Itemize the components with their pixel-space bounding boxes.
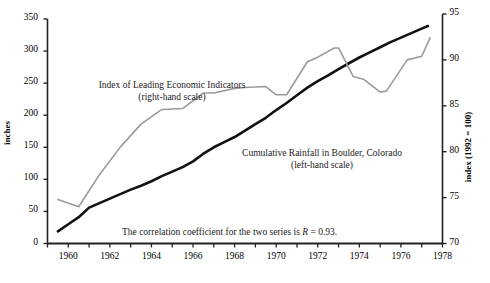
left-tick-label-50: 50 xyxy=(4,204,38,214)
x-tick-label-1968: 1968 xyxy=(213,251,257,261)
series-label-index-line1: Index of Leading Economic Indicators xyxy=(72,79,272,91)
right-tick-label-95: 95 xyxy=(450,7,480,17)
series-line-rainfall xyxy=(58,26,428,231)
series-label-rainfall-line1: Cumulative Rainfall in Boulder, Colorado xyxy=(226,147,418,159)
left-tick-label-0: 0 xyxy=(4,237,38,247)
axis-lines xyxy=(48,14,443,244)
series-line-index xyxy=(58,38,430,207)
left-tick-label-100: 100 xyxy=(4,172,38,182)
x-tick-label-1962: 1962 xyxy=(88,251,132,261)
x-tick-label-1976: 1976 xyxy=(379,251,423,261)
chart-plot-area xyxy=(0,0,490,283)
x-tick-label-1978: 1978 xyxy=(421,251,465,261)
x-tick-label-1974: 1974 xyxy=(337,251,381,261)
series-label-rainfall-line2: (left-hand scale) xyxy=(226,159,418,171)
x-tick-label-1960: 1960 xyxy=(46,251,90,261)
correlation-annotation: The correlation coefficient for the two … xyxy=(122,227,337,237)
left-tick-label-250: 250 xyxy=(4,76,38,86)
series-label-index-line2: (right-hand scale) xyxy=(72,91,272,103)
x-tick-label-1964: 1964 xyxy=(129,251,173,261)
right-axis-title: index (1992 = 100) xyxy=(463,87,473,207)
series-label-index-of-leading-economic-indicators: Index of Leading Economic Indicators (ri… xyxy=(72,79,272,103)
left-axis-title: inches xyxy=(2,113,12,153)
chart-figure: 050100150200250300350 707580859095 19601… xyxy=(0,0,490,283)
x-tick-label-1972: 1972 xyxy=(296,251,340,261)
series-lines xyxy=(58,26,430,231)
x-tick-label-1966: 1966 xyxy=(171,251,215,261)
correlation-prefix: The correlation coefficient for the two … xyxy=(122,227,302,237)
right-tick-label-70: 70 xyxy=(450,237,480,247)
x-tick-label-1970: 1970 xyxy=(254,251,298,261)
left-tick-label-350: 350 xyxy=(4,12,38,22)
series-label-cumulative-rainfall: Cumulative Rainfall in Boulder, Colorado… xyxy=(226,147,418,171)
left-tick-label-300: 300 xyxy=(4,44,38,54)
right-tick-label-90: 90 xyxy=(450,53,480,63)
correlation-suffix: = 0.93. xyxy=(308,227,337,237)
